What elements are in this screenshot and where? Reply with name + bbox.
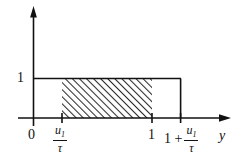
numerator-subscript: 1 [61, 130, 65, 139]
figure-container: 1 0 u1 τ 1 1 + u1 τ y [0, 0, 241, 162]
fraction-denominator: τ [184, 142, 198, 155]
x-tick-label-u1-over-tau: u1 τ [53, 124, 67, 155]
one-plus-prefix: 1 + [164, 132, 182, 146]
numerator-subscript: 1 [192, 130, 196, 139]
hatched-region [62, 79, 152, 119]
y-axis-arrowhead [30, 6, 37, 18]
fraction-denominator: τ [53, 142, 67, 155]
fraction-u1-over-tau: u1 τ [53, 124, 67, 155]
fraction-numerator: u1 [53, 124, 67, 139]
x-tick-label-origin: 0 [28, 128, 35, 142]
fraction-numerator: u1 [184, 124, 198, 139]
x-tick-label-one-plus-u1-over-tau: 1 + u1 τ [164, 124, 198, 155]
x-tick-label-one: 1 [148, 128, 155, 142]
x-axis-arrowhead [219, 114, 231, 122]
y-tick-label-one: 1 [17, 71, 24, 85]
figure-canvas [0, 0, 241, 162]
fraction-u1-over-tau-second: u1 τ [184, 124, 198, 155]
x-axis-label: y [219, 129, 225, 143]
